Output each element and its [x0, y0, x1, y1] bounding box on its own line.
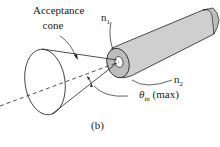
- optical-fiber-acceptance-cone-diagram: Acceptance cone n1 n2 θin (max) (b): [0, 0, 220, 147]
- n1-pointer: [110, 22, 113, 50]
- acceptance-label-line1: Acceptance: [33, 5, 73, 16]
- figure-caption: (b): [91, 120, 104, 131]
- acceptance-cone-pointer: [60, 36, 76, 58]
- theta-max-label: θin (max): [139, 89, 179, 103]
- theta-pointer: [94, 86, 128, 96]
- n2-pointer: [132, 80, 172, 85]
- acceptance-label-line2: cone: [33, 20, 73, 31]
- acceptance-cone-label: Acceptance cone: [33, 5, 73, 31]
- n2-label: n2: [174, 74, 183, 88]
- n2-subscript: 2: [180, 80, 184, 88]
- theta-suffix: (max): [150, 88, 179, 100]
- cone-lower-edge: [52, 63, 117, 114]
- optical-axis: [0, 62, 119, 106]
- acceptance-cone-base: [21, 47, 70, 118]
- n1-subscript: 1: [107, 18, 111, 26]
- acceptance-cone-arrowhead: [74, 54, 78, 60]
- n1-label: n1: [101, 12, 110, 26]
